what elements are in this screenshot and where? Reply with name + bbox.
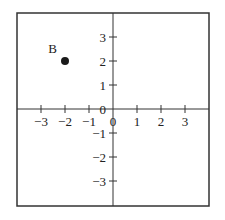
coordinate-plane: −3 −2 −1 0 1 2 3 3 2 1 0 −1 −2 −3 B — [0, 0, 225, 220]
x-tick-label: 1 — [134, 114, 141, 129]
y-tick-label: 1 — [100, 78, 107, 93]
point-b-label: B — [48, 41, 57, 56]
x-tick-label: 2 — [158, 114, 165, 129]
point-b — [61, 57, 69, 65]
y-tick-label: 0 — [100, 102, 107, 117]
x-tick-label: 0 — [110, 114, 117, 129]
x-tick-label: −2 — [58, 114, 72, 129]
y-tick-label: −1 — [92, 126, 106, 141]
y-tick-label: −3 — [92, 174, 106, 189]
y-tick-label: 2 — [100, 54, 107, 69]
y-tick-label: 3 — [100, 30, 107, 45]
y-tick-label: −2 — [92, 150, 106, 165]
x-tick-label: −3 — [34, 114, 48, 129]
x-tick-label: 3 — [182, 114, 189, 129]
